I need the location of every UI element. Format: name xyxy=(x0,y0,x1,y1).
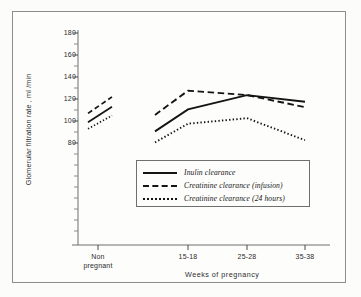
ytick-label-160: 160 xyxy=(52,51,76,58)
ytick-label-100: 100 xyxy=(52,117,76,124)
legend-item-inulin: Inulin clearance xyxy=(143,166,309,179)
ytick-label-80: 80 xyxy=(52,139,76,146)
series-creatinine-24h-line xyxy=(155,118,305,142)
series-inulin-nonpregnant xyxy=(88,107,112,122)
x-ticks xyxy=(98,245,305,250)
xtick-nonpregnant-line1: Non xyxy=(68,253,128,262)
xtick-label-35-38: 35-38 xyxy=(275,253,335,262)
legend: Inulin clearance Creatinine clearance (i… xyxy=(136,160,310,207)
legend-label-creatinine-24h: Creatinine clearance (24 hours) xyxy=(184,194,285,203)
xtick-label-nonpregnant: Non pregnant xyxy=(68,253,128,270)
legend-line-dotted-icon xyxy=(143,195,177,203)
y-axis-title: Glomerular filtration rate , ml /min xyxy=(24,55,33,205)
xtick-label-15-18: 15-18 xyxy=(158,253,218,262)
ytick-label-140: 140 xyxy=(52,73,76,80)
legend-label-inulin: Inulin clearance xyxy=(184,168,236,177)
xtick-label-25-28: 25-28 xyxy=(217,253,277,262)
series-inulin-line xyxy=(155,95,305,131)
legend-line-solid-icon xyxy=(143,169,177,177)
series-creatinine-infusion-line xyxy=(155,91,305,115)
series-creatinine-24h-nonpregnant xyxy=(88,116,112,129)
ytick-label-120: 120 xyxy=(52,95,76,102)
x-axis-title: Weeks of pregnancy xyxy=(185,270,259,279)
series-creatinine-infusion-nonpregnant xyxy=(88,97,112,114)
xtick-nonpregnant-line2: pregnant xyxy=(68,262,128,271)
ytick-label-180: 180 xyxy=(52,29,76,36)
figure: 180 160 140 120 100 80 Glomerular filtra… xyxy=(0,0,361,297)
legend-item-creatinine-24h: Creatinine clearance (24 hours) xyxy=(143,192,309,205)
legend-item-creatinine-infusion: Creatinine clearance (infusion) xyxy=(143,179,309,192)
legend-line-dashed-icon xyxy=(143,182,177,190)
legend-label-creatinine-infusion: Creatinine clearance (infusion) xyxy=(184,181,283,190)
